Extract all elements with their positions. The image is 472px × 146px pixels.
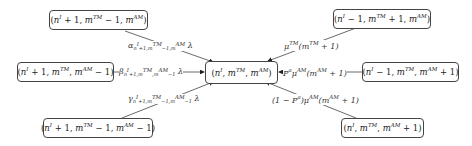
edge-label-alpha: αnI+1,mTM−1,mAM λ [128,41,193,51]
edge-label-gamma: γnI+1,mTM−1,mAM−1 λ [128,94,200,104]
state-node-left: (nI + 1, mTM, mAM − 1) [17,62,114,82]
state-node-bottom-right: (nI, mTM, mAM + 1) [341,118,424,138]
edge-label-pa-mu-am: PaμAM(mAM + 1) [283,67,347,78]
state-node-center: (nI, mTM, mAM) [205,61,278,84]
state-node-top-right: (nI − 1, mTM + 1, mAM) [333,9,431,29]
state-node-bottom-left: (nI + 1, mTM − 1, mAM − 1) [43,118,153,138]
state-node-right: (nI − 1, mTM, mAM + 1) [362,62,459,82]
state-node-top-left: (nI + 1, mTM − 1, mAM) [49,10,148,30]
edge-label-one-minus-pa-mu-am: (1 − Pa)μAM(mAM + 1) [272,94,359,105]
edge-label-beta: βnI+1,mTM,mAM−1 λ [119,67,183,77]
edge-label-mu-tm: μTM(mTM + 1) [284,40,339,51]
